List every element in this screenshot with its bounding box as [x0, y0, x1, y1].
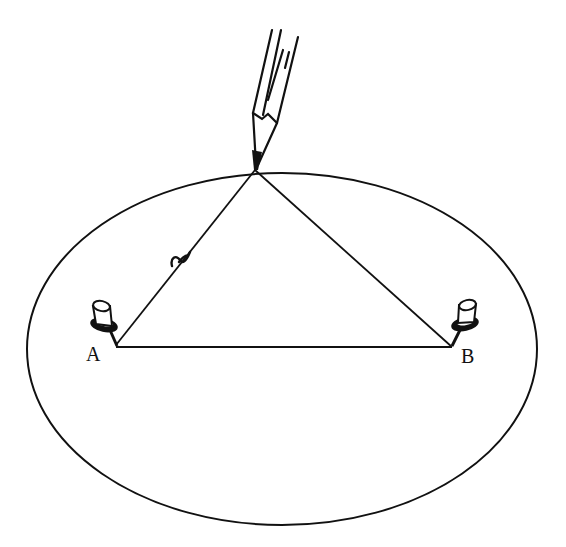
pencil-icon	[253, 30, 298, 165]
string-loop	[116, 170, 452, 347]
string-tip-to-b	[255, 170, 452, 347]
pin-b-icon	[451, 298, 479, 346]
focus-label-b: B	[461, 346, 474, 366]
ellipse-construction-diagram	[0, 0, 566, 547]
focus-label-a: A	[86, 344, 100, 364]
pin-a-icon	[90, 299, 118, 346]
